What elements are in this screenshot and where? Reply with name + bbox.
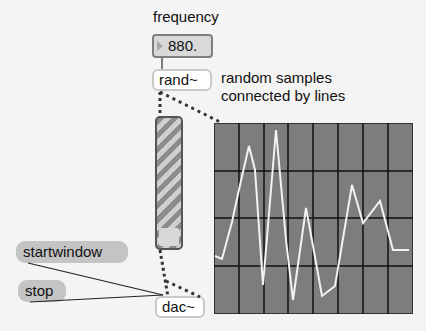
scope-grid — [214, 123, 413, 314]
patch-cord-startwindow-dac — [28, 263, 163, 295]
signal-cord-rand-scope — [160, 92, 222, 123]
scope-trace — [215, 130, 409, 300]
signal-cord-meter-dac — [160, 250, 168, 297]
patch-cord-stop-dac — [30, 295, 163, 302]
signal-cord-meter-dac-right — [166, 281, 200, 297]
patch-cords-layer — [0, 0, 426, 331]
